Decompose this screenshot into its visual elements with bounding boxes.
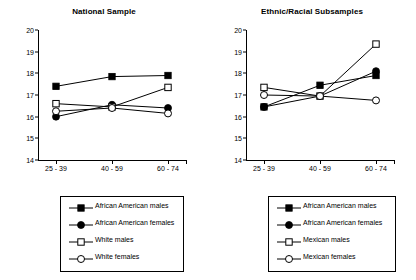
legend-label: Mexican males [302,236,350,243]
x-axis-tick-mark [376,160,377,164]
x-axis-tick-mark [112,160,113,164]
legend-item: White males [61,231,183,248]
legend-label: White females [94,253,139,260]
x-axis-tick-mark [264,160,265,164]
panel-ethnic-racial-subsamples: Ethnic/Racial Subsamples 201918171615142… [208,0,416,200]
x-axis-end-mark [394,160,395,164]
panel-national-sample: National Sample 2019181716151425 - 3940 … [0,0,208,200]
legend-marker-open-circle-icon [276,251,302,263]
x-axis-end-mark [186,160,187,164]
panel-title: National Sample [0,7,208,16]
legend-marker-filled-circle-icon [68,217,94,229]
legend-item: African American males [269,197,395,214]
data-series-layer [246,30,394,160]
legend-national-sample: African American males African American … [60,196,184,272]
legend-marker-open-square-icon [276,234,302,246]
plot-area: 2019181716151425 - 3940 - 5960 - 74 [38,30,186,160]
legend-marker-open-circle-icon [68,251,94,263]
legend-item: African American females [61,214,183,231]
legend-label: African American females [94,219,174,226]
x-axis-tick-mark [168,160,169,164]
legend-marker-filled-square-icon [276,200,302,212]
legend-item: African American males [61,197,183,214]
legend-marker-open-square-icon [68,234,94,246]
panel-title: Ethnic/Racial Subsamples [208,7,416,16]
x-axis-tick-mark [320,160,321,164]
legend-label: White males [94,236,134,243]
legend-label: Mexican females [302,253,356,260]
plot-area: 2019181716151425 - 3940 - 5960 - 74 [246,30,394,160]
x-axis-tick-label: 60 - 74 [365,165,387,172]
chart-panels: National Sample 2019181716151425 - 3940 … [0,0,416,200]
legend-item: African American females [269,214,395,231]
legend-label: African American males [302,202,377,209]
legend-label: African American females [302,219,382,226]
x-axis-tick-label: 25 - 39 [45,165,67,172]
x-axis-tick-label: 60 - 74 [157,165,179,172]
x-axis-tick-label: 25 - 39 [253,165,275,172]
legend-marker-filled-circle-icon [276,217,302,229]
legend-label: African American males [94,202,169,209]
data-series-layer [38,30,186,160]
legend-marker-filled-square-icon [68,200,94,212]
x-axis-tick-label: 40 - 59 [101,165,123,172]
legend-ethnic-racial-subsamples: African American males African American … [268,196,396,272]
x-axis-tick-mark [56,160,57,164]
legend-item: Mexican females [269,248,395,265]
legend-item: White females [61,248,183,265]
legend-item: Mexican males [269,231,395,248]
x-axis-tick-label: 40 - 59 [309,165,331,172]
